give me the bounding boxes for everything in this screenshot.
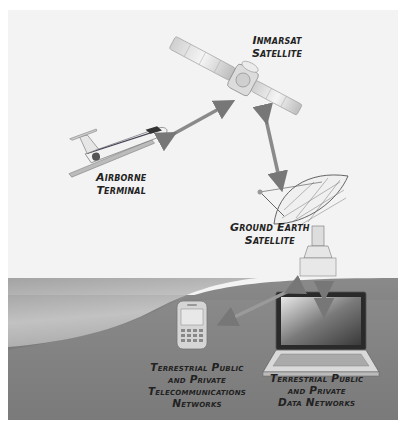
diagram-panel: Inmarsat Satellite Airborne Terminal Gro…	[8, 10, 398, 420]
label-telecom-networks: Terrestrial Public and Private Telecommu…	[148, 361, 246, 409]
label-airborne-terminal: Airborne Terminal	[96, 172, 146, 197]
laptop-icon	[263, 292, 379, 376]
arrow-airborne-satellite	[168, 105, 226, 137]
label-data-networks: Terrestrial Public and Private Data Netw…	[270, 372, 363, 408]
label-ground-earth-satellite: Ground Earth Satellite	[230, 222, 310, 247]
airplane-icon	[61, 115, 172, 178]
diagram-scene	[8, 10, 398, 420]
label-inmarsat-satellite: Inmarsat Satellite	[252, 35, 302, 60]
mobile-phone-icon	[177, 301, 207, 349]
arrow-satellite-ground	[265, 115, 280, 182]
